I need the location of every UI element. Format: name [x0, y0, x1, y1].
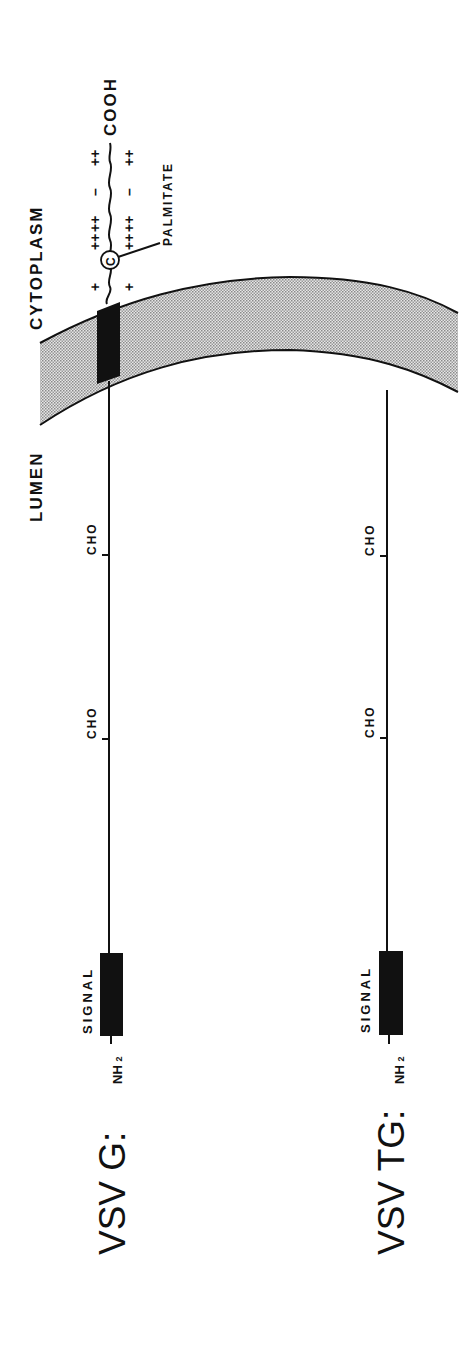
signal-label: SIGNAL	[80, 967, 95, 1034]
charge: ++	[121, 150, 137, 166]
signal-label: SIGNAL	[358, 966, 373, 1033]
charge: –	[87, 188, 103, 196]
nh2-subscript: 2	[396, 1057, 406, 1062]
charge: –	[121, 188, 137, 196]
cho-label-2: CHO	[85, 706, 99, 739]
nh2-label: NH 2	[392, 1057, 407, 1084]
cho-label-1: CHO	[363, 523, 377, 556]
charge: ++	[87, 150, 103, 166]
charge: ++	[87, 234, 103, 250]
cho-label-1: CHO	[85, 522, 99, 555]
palmitate-label: PALMITATE	[161, 162, 175, 246]
cytoplasm-label: CYTOPLASM	[27, 206, 46, 330]
nh2-text: NH	[110, 1065, 125, 1084]
cytoplasmic-tail	[106, 143, 111, 304]
nh2-subscript: 2	[114, 1057, 124, 1062]
charges-left: + ++ ++ – ++	[87, 150, 103, 291]
charge: ++	[121, 234, 137, 250]
charge: +	[121, 283, 137, 291]
construct-name-vsv-tg: VSV TG:	[371, 1110, 412, 1255]
cysteine-label: C	[104, 257, 118, 266]
charges-right: + ++ ++ – ++	[121, 150, 137, 291]
transmembrane-domain	[97, 302, 120, 384]
vsv-tg-construct: CHO CHO SIGNAL NH 2 VSV TG:	[358, 390, 412, 1255]
cho-label-2: CHO	[363, 705, 377, 738]
charge: ++	[87, 216, 103, 232]
lumen-label: LUMEN	[27, 452, 46, 522]
nh2-label: NH 2	[110, 1057, 125, 1084]
cooh-label: COOH	[101, 77, 120, 136]
vsv-g-construct: CHO CHO SIGNAL NH 2 VSV G: C PALMITATE C…	[80, 77, 175, 1255]
protein-topology-diagram: CYTOPLASM LUMEN CHO CHO SIGNAL NH 2 VSV …	[0, 0, 460, 1353]
signal-sequence-box	[100, 953, 123, 1036]
signal-sequence-box	[379, 951, 403, 1035]
charge: +	[87, 283, 103, 291]
charge: ++	[121, 216, 137, 232]
nh2-text: NH	[392, 1065, 407, 1084]
construct-name-vsv-g: VSV G:	[92, 1132, 133, 1255]
